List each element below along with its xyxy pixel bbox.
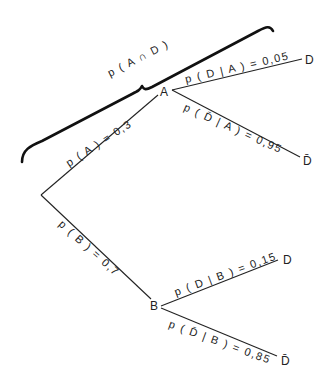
outcome-b-dbar: D̄ bbox=[281, 354, 290, 368]
outcome-a-dbar: D̄ bbox=[303, 154, 312, 168]
edge-label-b-d: p ( D | B ) = 0,15 bbox=[173, 250, 278, 298]
probability-tree: p ( A ∩ D ) p ( A ) = 0,3 p ( B ) = 0,7 … bbox=[0, 0, 327, 385]
edge-label-b-dbar: p ( D̄ | B ) = 0,85 bbox=[167, 318, 272, 366]
outcome-a-d: D bbox=[305, 53, 314, 67]
outcome-b-d: D bbox=[283, 253, 292, 267]
edge-label-a-dbar: p ( D̄ | A ) = 0,95 bbox=[182, 101, 284, 155]
edge-label-a-d: p ( D | A ) = 0,05 bbox=[184, 49, 291, 85]
brace-label: p ( A ∩ D ) bbox=[105, 38, 170, 79]
node-b: B bbox=[150, 299, 158, 313]
edge-label-root-b: p ( B ) = 0,7 bbox=[57, 218, 122, 279]
node-a: A bbox=[160, 85, 168, 99]
